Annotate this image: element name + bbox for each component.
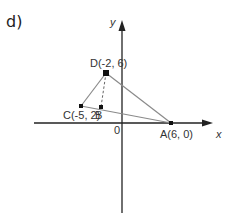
y-axis-arrow-icon (119, 20, 126, 31)
point-D-label: D(-2, 6) (90, 57, 127, 69)
origin-label: 0 (114, 124, 120, 136)
point-A-label: A(6, 0) (160, 128, 193, 140)
x-axis (34, 120, 213, 127)
point-D (103, 70, 109, 76)
point-C (79, 104, 83, 108)
y-axis-label: y (110, 16, 116, 28)
segment-DA (106, 73, 171, 123)
coordinate-diagram (0, 0, 236, 218)
y-axis (119, 20, 126, 213)
point-B-label: B (95, 109, 102, 121)
x-axis-arrow-icon (202, 120, 213, 127)
x-axis-label: x (216, 128, 222, 140)
point-A (169, 121, 173, 125)
